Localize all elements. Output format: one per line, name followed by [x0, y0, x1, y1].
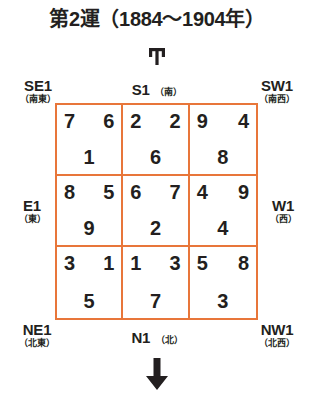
cell-top-left-number: 8	[64, 180, 75, 204]
direction-label-ne: NE1 （北東）	[6, 322, 68, 348]
cell-top-row: 4 9	[190, 180, 256, 204]
cell-top-left-number: 5	[197, 251, 208, 275]
cell-bottom-row: 6	[123, 145, 187, 169]
grid-cell[interactable]: 1 3 7	[123, 247, 189, 318]
cell-top-row: 3 1	[57, 251, 121, 275]
grid-cell[interactable]: 5 8 3	[190, 247, 256, 318]
grid-cell[interactable]: 7 6 1	[57, 105, 123, 176]
direction-code-s: S1	[132, 81, 150, 98]
cell-top-right-number: 4	[238, 109, 249, 133]
up-arrow-glyph	[0, 46, 314, 72]
direction-code-ne: NE1	[6, 322, 68, 338]
page-title: 第2運（1884〜1904年）	[0, 6, 314, 32]
cell-top-left-number: 7	[64, 109, 75, 133]
direction-label-s: S1 （南）	[107, 82, 207, 99]
cell-bottom-number: 2	[150, 216, 161, 240]
cell-top-left-number: 4	[197, 180, 208, 204]
direction-kanji-ne: （北東）	[6, 339, 68, 348]
cell-top-right-number: 2	[170, 109, 181, 133]
direction-label-n: N1 （北）	[107, 330, 207, 347]
grid-cell[interactable]: 3 1 5	[57, 247, 123, 318]
cell-top-row: 1 3	[123, 251, 187, 275]
cell-bottom-number: 4	[217, 216, 228, 240]
cell-bottom-number: 6	[150, 145, 161, 169]
cell-top-right-number: 9	[238, 180, 249, 204]
feng-shui-flying-star-chart: 第2運（1884〜1904年） SE1 （南東） S1 （南） SW1 （南西）…	[0, 0, 314, 408]
cell-top-left-number: 9	[197, 109, 208, 133]
cell-bottom-number: 3	[217, 289, 228, 313]
direction-code-sw: SW1	[246, 78, 308, 94]
cell-top-left-number: 1	[130, 251, 141, 275]
direction-code-n: N1	[131, 329, 150, 346]
direction-label-nw: NW1 （北西）	[246, 322, 308, 348]
grid-cell[interactable]: 2 2 6	[123, 105, 189, 176]
cell-top-row: 7 6	[57, 109, 121, 133]
down-arrow-glyph	[0, 358, 314, 396]
cell-top-row: 6 7	[123, 180, 187, 204]
cell-bottom-row: 7	[123, 289, 187, 313]
direction-code-nw: NW1	[246, 322, 308, 338]
grid-cell[interactable]: 8 5 9	[57, 176, 123, 247]
cell-top-row: 5 8	[190, 251, 256, 275]
cell-top-right-number: 5	[103, 180, 114, 204]
direction-label-sw: SW1 （南西）	[246, 78, 308, 104]
grid-cell[interactable]: 9 4 8	[190, 105, 256, 176]
cell-bottom-row: 8	[190, 145, 256, 169]
direction-label-se: SE1 （南東）	[8, 78, 68, 104]
cell-bottom-number: 5	[84, 289, 95, 313]
cell-top-right-number: 6	[103, 109, 114, 133]
direction-kanji-w: （西）	[260, 215, 306, 224]
direction-kanji-s: （南）	[155, 87, 182, 97]
cell-bottom-row: 3	[190, 289, 256, 313]
direction-code-se: SE1	[8, 78, 68, 94]
cell-top-right-number: 8	[238, 251, 249, 275]
cell-bottom-row: 2	[123, 216, 187, 240]
cell-top-right-number: 7	[170, 180, 181, 204]
grid-cell[interactable]: 6 7 2	[123, 176, 189, 247]
direction-kanji-nw: （北西）	[246, 339, 308, 348]
cell-bottom-row: 9	[57, 216, 121, 240]
flying-star-grid: 7 6 1 2 2 6 9 4 8	[55, 103, 258, 320]
cell-top-left-number: 2	[130, 109, 141, 133]
cell-top-row: 8 5	[57, 180, 121, 204]
direction-kanji-e: （東）	[10, 215, 54, 224]
cell-bottom-row: 5	[57, 289, 121, 313]
cell-top-left-number: 6	[130, 180, 141, 204]
grid-cell[interactable]: 4 9 4	[190, 176, 256, 247]
cell-bottom-number: 7	[150, 289, 161, 313]
cell-bottom-number: 1	[84, 145, 95, 169]
cell-bottom-row: 1	[57, 145, 121, 169]
cell-top-right-number: 1	[103, 251, 114, 275]
direction-label-e: E1 （東）	[10, 198, 54, 224]
cell-top-row: 2 2	[123, 109, 187, 133]
cell-top-right-number: 3	[170, 251, 181, 275]
cell-bottom-number: 9	[84, 216, 95, 240]
cell-bottom-row: 4	[190, 216, 256, 240]
direction-kanji-n: （北）	[156, 335, 183, 345]
direction-label-w: W1 （西）	[260, 198, 306, 224]
direction-code-e: E1	[10, 198, 54, 214]
cell-bottom-number: 8	[217, 145, 228, 169]
direction-code-w: W1	[260, 198, 306, 214]
cell-top-row: 9 4	[190, 109, 256, 133]
cell-top-left-number: 3	[64, 251, 75, 275]
